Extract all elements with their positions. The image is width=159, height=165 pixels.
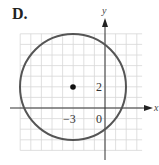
grid-lines [20, 34, 142, 151]
y-axis-arrow-icon [102, 18, 108, 27]
origin-label: 0 [96, 112, 102, 126]
x-axis-label: x [153, 102, 159, 113]
y-tick-label: 2 [96, 80, 102, 94]
x-tick-label: −3 [63, 112, 76, 126]
coordinate-plot: −3 0 2 x y [0, 0, 159, 165]
x-axis-arrow-icon [144, 105, 153, 111]
y-axis-label: y [101, 5, 107, 16]
center-point [70, 84, 76, 90]
